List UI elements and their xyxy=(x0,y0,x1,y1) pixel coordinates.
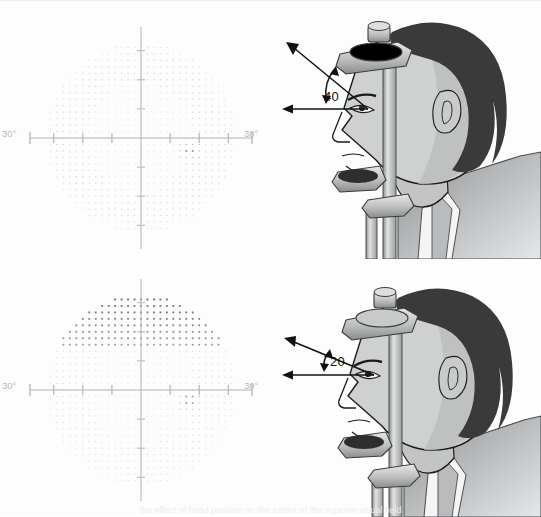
post-clamp xyxy=(362,194,414,218)
degree-label-right-bottom: 30° xyxy=(244,380,258,391)
forehead-rest-pad xyxy=(350,43,402,61)
angle-arc-arrowhead-lower xyxy=(320,363,329,372)
visual-field-plot-bottom-svg xyxy=(16,266,266,516)
angle-upper-arrowhead xyxy=(284,336,296,347)
field-axes xyxy=(30,279,252,501)
chin-rest-cup xyxy=(344,435,384,449)
angle-baseline-arrowhead xyxy=(282,105,293,114)
degree-label-left-bottom: 30° xyxy=(2,380,16,391)
visual-field-chart-bottom: 30° 30° xyxy=(16,266,266,516)
mouth xyxy=(348,420,370,422)
post-clamp xyxy=(368,464,420,488)
angle-baseline-arrowhead xyxy=(282,371,293,380)
perimeter-post xyxy=(383,50,396,259)
degree-label-left-top: 30° xyxy=(2,128,16,139)
angle-value-bottom: 20 xyxy=(330,354,345,369)
perimeter-head-top-svg xyxy=(280,4,541,259)
top-edge-divider xyxy=(0,0,541,2)
visual-field-plot-top-svg xyxy=(16,14,266,264)
angle-value-top: 40 xyxy=(324,89,339,104)
forehead-rest-pad xyxy=(356,309,408,327)
mouth xyxy=(342,154,364,156)
visual-field-chart-top: 30° 30° xyxy=(16,14,266,264)
chin-rest-cup xyxy=(338,169,378,183)
figure-caption-cutoff: the effect of head position on the exten… xyxy=(0,504,541,515)
degree-label-right-top: 30° xyxy=(244,128,258,139)
head-illustration-top: 40 xyxy=(280,4,541,259)
field-axes xyxy=(30,27,252,249)
perimeter-head-bottom-svg xyxy=(280,262,541,517)
thumbscrew-top xyxy=(368,22,390,31)
head-illustration-bottom: 20 xyxy=(280,262,541,517)
angle-upper-arrowhead xyxy=(286,42,299,55)
thumbscrew-top xyxy=(374,288,396,297)
